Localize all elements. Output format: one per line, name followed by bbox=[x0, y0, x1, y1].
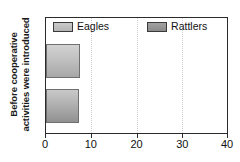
legend: Eagles Rattlers bbox=[45, 18, 228, 35]
bar-rattlers bbox=[46, 89, 79, 123]
legend-item-rattlers: Rattlers bbox=[147, 21, 207, 32]
legend-swatch-rattlers bbox=[147, 22, 167, 32]
gridline-20 bbox=[137, 18, 138, 133]
y-axis-label: Before cooperative activities were intro… bbox=[0, 0, 38, 148]
legend-label-eagles: Eagles bbox=[77, 21, 109, 32]
y-axis-label-text: Before cooperative activities were intro… bbox=[8, 17, 31, 131]
x-tick-label-40: 40 bbox=[221, 138, 233, 151]
x-tick-label-0: 0 bbox=[42, 138, 48, 151]
bar-chart: Before cooperative activities were intro… bbox=[0, 0, 240, 162]
gridline-10 bbox=[91, 18, 92, 133]
y-axis-label-line-2: activities were introduced bbox=[19, 17, 31, 131]
x-tick-label-10: 10 bbox=[85, 138, 97, 151]
gridline-30 bbox=[182, 18, 183, 133]
bar-eagles bbox=[46, 44, 80, 78]
legend-item-eagles: Eagles bbox=[53, 21, 109, 32]
x-tick-label-20: 20 bbox=[130, 138, 142, 151]
legend-swatch-eagles bbox=[53, 22, 73, 32]
x-tick-label-30: 30 bbox=[176, 138, 188, 151]
y-axis-label-line-1: Before cooperative bbox=[8, 17, 20, 131]
legend-label-rattlers: Rattlers bbox=[171, 21, 207, 32]
